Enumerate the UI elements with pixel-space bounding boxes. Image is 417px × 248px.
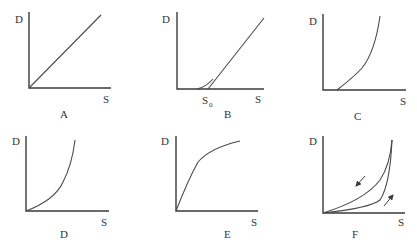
panel-f: D S F (309, 135, 405, 240)
y-axis-label: D (15, 13, 23, 25)
toe-curve (197, 79, 213, 89)
axes (177, 12, 264, 89)
x-axis-label: S (398, 216, 404, 228)
x-axis-label: S (255, 93, 261, 105)
panel-caption: A (60, 108, 68, 120)
y-axis-label: D (309, 135, 317, 147)
threshold-subscript: 0 (209, 101, 213, 109)
threshold-label: S (202, 94, 208, 106)
panel-e: D S E (161, 135, 258, 240)
y-axis-label: D (162, 13, 170, 25)
panel-caption: C (354, 110, 361, 122)
arrow-up-right-icon (384, 195, 393, 206)
panel-caption: B (224, 108, 231, 120)
curve (29, 15, 101, 88)
arrow-down-left-icon (356, 176, 365, 186)
curve (176, 141, 240, 211)
axes (323, 14, 406, 90)
linear-curve (208, 18, 264, 89)
y-axis-label: D (12, 135, 20, 147)
panel-a: D S A (15, 12, 111, 120)
panel-caption: F (352, 228, 358, 240)
curve (337, 16, 380, 90)
panel-b: D S S 0 B (162, 12, 264, 120)
curve (26, 140, 75, 211)
x-axis-label: S (101, 216, 107, 228)
y-axis-label: D (309, 15, 317, 27)
diagram-canvas: D S A D S S 0 B D S C D S D D S E (0, 0, 417, 248)
x-axis-label: S (251, 216, 257, 228)
upper-curve (323, 140, 392, 213)
x-axis-label: S (400, 95, 406, 107)
panel-caption: D (60, 228, 68, 240)
panel-caption: E (224, 228, 231, 240)
x-axis-label: S (103, 93, 109, 105)
axes (29, 12, 111, 88)
panel-d: D S D (12, 135, 109, 240)
axes (176, 136, 258, 211)
axes (323, 136, 405, 213)
y-axis-label: D (161, 135, 169, 147)
panel-c: D S C (309, 14, 406, 122)
